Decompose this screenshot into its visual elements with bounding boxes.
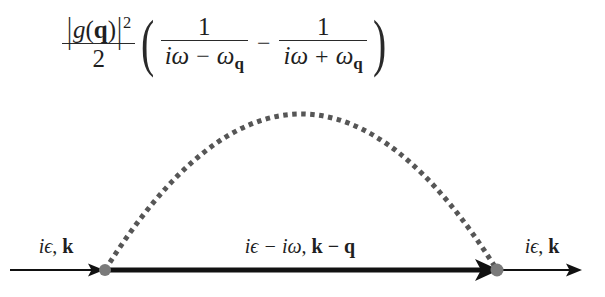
term1-omega-q: ω — [217, 42, 235, 69]
abs-exponent: 2 — [123, 15, 131, 32]
self-energy-formula: |g(q)|2 2 ( 1 iω−ωq − 1 iω+ωq ) — [62, 14, 390, 72]
group-paren-close: ) — [373, 23, 386, 63]
coupling-prefactor-fraction: |g(q)|2 2 — [62, 15, 135, 71]
left-vertex-dot — [99, 264, 111, 276]
outgoing-energy: iϵ — [525, 235, 539, 257]
term1-denominator: iω−ωq — [161, 41, 248, 72]
abs-bar-open: | — [66, 11, 73, 47]
outgoing-line-label: iϵ, k — [525, 236, 560, 256]
incoming-momentum: k — [62, 235, 73, 257]
incoming-energy: iϵ — [39, 235, 53, 257]
abs-bar-close: | — [116, 11, 123, 47]
formula-minus-operator: − — [250, 31, 278, 55]
term1-subscript-q: q — [234, 55, 243, 72]
term1-i: i — [165, 42, 172, 69]
outgoing-momentum: k — [548, 235, 559, 257]
coupling-denominator: 2 — [62, 44, 135, 71]
internal-line-label: iϵ − iω, k − q — [245, 236, 355, 256]
paren-close-g: ) — [108, 16, 116, 43]
term1-sign: − — [189, 43, 217, 69]
momentum-q: q — [94, 16, 108, 43]
term1-numerator: 1 — [161, 14, 248, 41]
phonon-term-2-fraction: 1 iω+ωq — [279, 14, 366, 72]
paren-open-g: ( — [86, 16, 94, 43]
coupling-g: g — [73, 16, 86, 43]
term2-omega-q: ω — [336, 42, 354, 69]
term2-numerator: 1 — [279, 14, 366, 41]
incoming-line-label: iϵ, k — [39, 236, 74, 256]
term1-omega: ω — [172, 42, 190, 69]
term2-omega: ω — [290, 42, 308, 69]
internal-energy: iϵ − iω — [245, 235, 302, 257]
group-paren-open: ( — [141, 23, 154, 63]
term2-denominator: iω+ωq — [279, 41, 366, 72]
right-vertex-dot — [491, 264, 504, 277]
coupling-numerator: |g(q)|2 — [62, 15, 135, 44]
outgoing-comma: , — [538, 235, 543, 257]
internal-comma: , — [302, 235, 307, 257]
incoming-comma: , — [52, 235, 57, 257]
phonon-term-1-fraction: 1 iω−ωq — [161, 14, 248, 72]
term2-subscript-q: q — [353, 55, 362, 72]
term2-sign: + — [308, 43, 336, 69]
internal-momentum: k − q — [312, 235, 356, 257]
